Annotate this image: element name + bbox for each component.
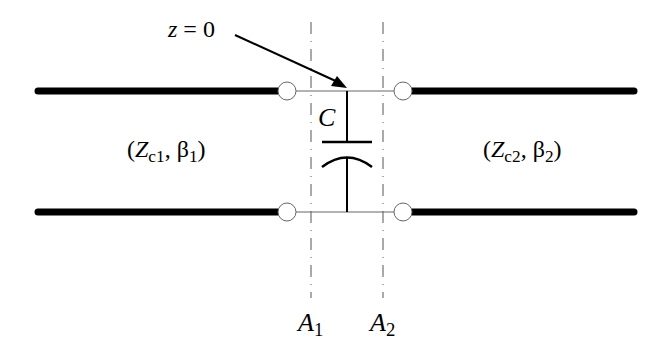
z0-label: z = 0 xyxy=(168,16,215,43)
plane-a2-label: A2 xyxy=(370,308,395,341)
separator: , xyxy=(521,136,533,162)
beta-sub: 2 xyxy=(545,147,554,166)
z-eq: = 0 xyxy=(177,16,215,42)
terminal-right-bottom xyxy=(394,203,412,221)
plane-name: A xyxy=(298,308,314,337)
paren-open: ( xyxy=(127,136,135,162)
plane-name: A xyxy=(370,308,386,337)
capacitor-label: C xyxy=(318,103,335,133)
beta-sub: 1 xyxy=(189,147,198,166)
impedance-sub: c1 xyxy=(148,147,164,166)
impedance-sub: c2 xyxy=(504,147,520,166)
terminal-right-top xyxy=(394,82,412,100)
plane-a1-label: A1 xyxy=(298,308,323,341)
plane-sub: 2 xyxy=(386,319,395,340)
z0-arrow-shaft xyxy=(235,35,340,83)
separator: , xyxy=(165,136,177,162)
beta-symbol: β xyxy=(177,136,189,162)
plane-sub: 1 xyxy=(314,319,323,340)
z-var: z xyxy=(168,16,177,42)
beta-symbol: β xyxy=(533,136,545,162)
paren-close: ) xyxy=(198,136,206,162)
terminal-left-top xyxy=(278,82,296,100)
right-line-params: (Zc2, β2) xyxy=(483,136,562,167)
impedance-symbol: Z xyxy=(491,136,504,162)
paren-open: ( xyxy=(483,136,491,162)
terminal-left-bottom xyxy=(278,203,296,221)
circuit-drawing xyxy=(0,0,663,352)
z0-arrow-head xyxy=(331,76,347,88)
paren-close: ) xyxy=(554,136,562,162)
diagram-canvas: z = 0 C (Zc1, β1) (Zc2, β2) A1 A2 xyxy=(0,0,663,352)
left-line-params: (Zc1, β1) xyxy=(127,136,206,167)
impedance-symbol: Z xyxy=(135,136,148,162)
